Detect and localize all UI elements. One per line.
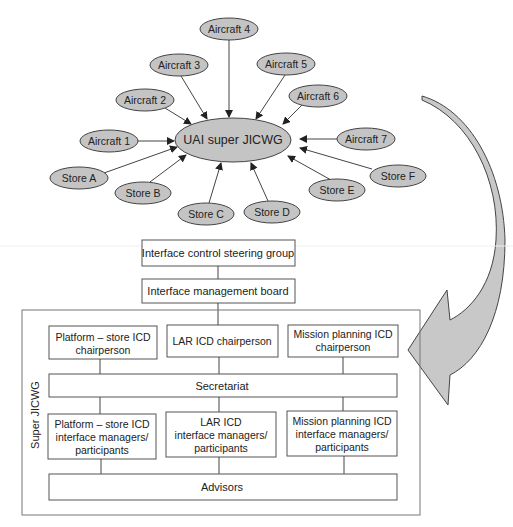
node-store-b: Store B — [115, 182, 171, 204]
svg-text:Store D: Store D — [254, 206, 290, 218]
node-aircraft-6: Aircraft 6 — [289, 85, 347, 107]
svg-text:Store A: Store A — [62, 172, 96, 184]
svg-text:Store C: Store C — [188, 208, 224, 220]
advisors-box: Advisors — [49, 474, 397, 500]
node-aircraft-7: Aircraft 7 — [337, 128, 395, 150]
svg-text:Store F: Store F — [381, 170, 415, 182]
chair-lar: LAR ICD chairperson — [167, 325, 278, 357]
svg-text:Store B: Store B — [125, 187, 160, 199]
svg-text:interface managers/: interface managers/ — [296, 428, 389, 440]
secretariat-box: Secretariat — [49, 374, 397, 397]
hub-label: UAI super JICWG — [183, 133, 282, 147]
svg-text:interface managers/: interface managers/ — [175, 429, 268, 441]
svg-text:Store E: Store E — [319, 184, 354, 196]
svg-text:participants: participants — [75, 444, 129, 456]
node-store-a: Store A — [50, 167, 108, 189]
svg-text:Aircraft 6: Aircraft 6 — [297, 90, 339, 102]
svg-text:chairperson: chairperson — [316, 341, 371, 353]
node-store-f: Store F — [370, 165, 426, 187]
svg-text:Aircraft 4: Aircraft 4 — [208, 23, 250, 35]
svg-text:Aircraft 5: Aircraft 5 — [265, 58, 307, 70]
svg-text:Platform – store ICD: Platform – store ICD — [55, 331, 151, 343]
svg-text:Advisors: Advisors — [201, 481, 244, 493]
steering-group-box: Interface control steering group — [142, 240, 295, 266]
managers-mission-planning: Mission planning ICD interface managers/… — [287, 411, 397, 456]
svg-text:Aircraft 1: Aircraft 1 — [88, 135, 130, 147]
svg-text:Aircraft 7: Aircraft 7 — [345, 133, 387, 145]
node-store-e: Store E — [309, 179, 365, 201]
node-aircraft-4: Aircraft 4 — [200, 18, 258, 40]
hub-node: UAI super JICWG — [175, 118, 291, 162]
svg-text:Secretariat: Secretariat — [195, 380, 248, 392]
managers-lar: LAR ICD interface managers/ participants — [166, 412, 276, 457]
node-aircraft-2: Aircraft 2 — [116, 89, 174, 111]
svg-text:Interface control steering gro: Interface control steering group — [142, 247, 294, 259]
svg-text:Aircraft 3: Aircraft 3 — [158, 59, 200, 71]
svg-text:participants: participants — [315, 441, 369, 453]
diagram-canvas: UAI super JICWG Aircraft 4Aircraft 3Airc… — [0, 0, 513, 527]
svg-text:LAR ICD: LAR ICD — [200, 416, 242, 428]
container-label: Super JICWG — [29, 381, 41, 449]
svg-text:Mission planning ICD: Mission planning ICD — [293, 328, 393, 340]
svg-text:chairperson: chairperson — [76, 344, 131, 356]
management-board-box: Interface management board — [142, 279, 295, 303]
svg-text:Interface management board: Interface management board — [147, 285, 288, 297]
svg-text:interface managers/: interface managers/ — [56, 431, 149, 443]
svg-text:Mission planning ICD: Mission planning ICD — [292, 415, 392, 427]
svg-text:Platform – store ICD: Platform – store ICD — [54, 418, 150, 430]
node-aircraft-1: Aircraft 1 — [80, 130, 138, 152]
node-aircraft-3: Aircraft 3 — [150, 54, 208, 76]
managers-platform-store: Platform – store ICD interface managers/… — [48, 414, 156, 459]
chair-mission-planning: Mission planning ICD chairperson — [288, 325, 398, 357]
node-aircraft-5: Aircraft 5 — [257, 53, 315, 75]
curved-arrow-icon — [408, 96, 505, 405]
svg-text:LAR ICD chairperson: LAR ICD chairperson — [172, 335, 271, 347]
svg-text:participants: participants — [194, 442, 248, 454]
chair-platform-store: Platform – store ICD chairperson — [49, 326, 157, 359]
node-store-d: Store D — [244, 201, 300, 223]
svg-text:Aircraft 2: Aircraft 2 — [124, 94, 166, 106]
node-store-c: Store C — [178, 203, 234, 225]
